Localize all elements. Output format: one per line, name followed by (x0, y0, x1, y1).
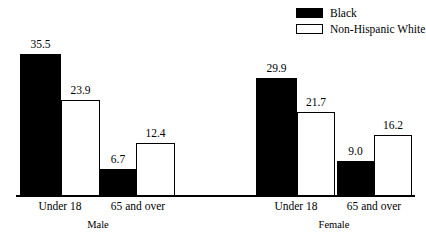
bar-male-65over-black (100, 169, 136, 196)
bar-female-65over-black (337, 161, 374, 196)
bar-value-male-65over-black: 6.7 (95, 153, 141, 165)
bar-chart: Black Non-Hispanic White 35.5 23.9 6.7 1… (0, 0, 426, 244)
bar-female-under18-white (297, 112, 335, 196)
bar-value-female-under18-white: 21.7 (291, 96, 341, 108)
group-label-male: Male (60, 219, 136, 231)
group-label-female: Female (296, 219, 372, 231)
bar-value-female-under18-black: 29.9 (250, 62, 303, 74)
bar-value-male-under18-black: 35.5 (14, 38, 67, 50)
bar-male-65over-white (136, 143, 175, 196)
bar-value-female-65over-white: 16.2 (368, 119, 418, 131)
category-label-female-65over: 65 and over (332, 200, 416, 213)
bar-value-male-under18-white: 23.9 (55, 84, 106, 96)
x-axis-line (16, 195, 415, 197)
bar-male-under18-white (61, 100, 100, 196)
category-label-male-65over: 65 and over (96, 200, 180, 213)
bar-female-65over-white (374, 135, 412, 196)
bar-male-under18-black (20, 54, 61, 196)
plot-area: 35.5 23.9 6.7 12.4 29.9 21.7 9.0 16.2 Un… (0, 0, 426, 244)
bar-value-male-65over-white: 12.4 (130, 127, 181, 139)
category-label-female-under18: Under 18 (256, 200, 336, 213)
category-label-male-under18: Under 18 (20, 200, 100, 213)
bar-value-female-65over-black: 9.0 (331, 145, 380, 157)
